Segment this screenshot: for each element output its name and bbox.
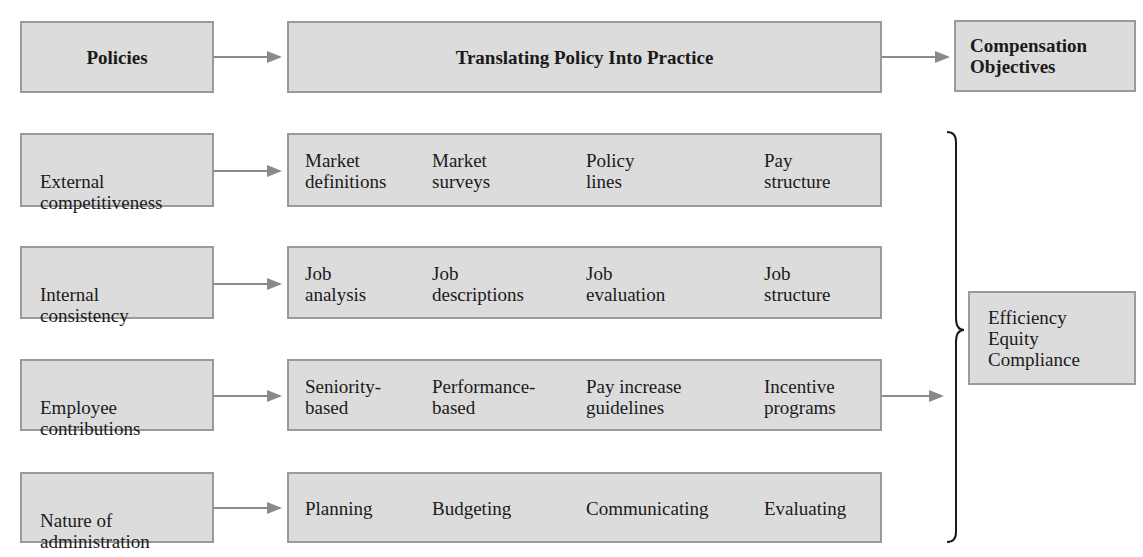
objectives-list: Efficiency Equity Compliance: [988, 307, 1080, 370]
practice-item: Budgeting: [432, 498, 511, 519]
arrow-row-2: [214, 283, 280, 285]
objectives-header: Compensation Objectives: [954, 20, 1136, 92]
practice-item: Job evaluation: [586, 263, 665, 305]
practice-box-administration: Planning Budgeting Communicating Evaluat…: [287, 472, 882, 543]
practice-item: Seniority- based: [305, 376, 381, 418]
practice-item: Evaluating: [764, 498, 846, 519]
policy-label: External competitiveness: [40, 171, 162, 213]
arrow-policies-to-practice: [214, 56, 280, 58]
practice-item: Pay structure: [764, 150, 830, 192]
policy-label: Employee contributions: [40, 397, 140, 439]
arrow-practice-to-objectives: [882, 56, 948, 58]
translating-header: Translating Policy Into Practice: [287, 21, 882, 93]
practice-item: Communicating: [586, 498, 708, 519]
policy-box-administration: Nature of administration: [20, 472, 214, 543]
practice-item: Job structure: [764, 263, 830, 305]
practice-item: Policy lines: [586, 150, 635, 192]
practice-item: Market surveys: [432, 150, 490, 192]
right-brace-icon: [940, 128, 970, 548]
practice-box-external: Market definitions Market surveys Policy…: [287, 133, 882, 207]
policy-box-external: External competitiveness: [20, 133, 214, 207]
practice-item: Market definitions: [305, 150, 386, 192]
practice-box-employee: Seniority- based Performance- based Pay …: [287, 359, 882, 431]
arrow-row-1: [214, 170, 280, 172]
objectives-header-label: Compensation Objectives: [970, 35, 1087, 77]
practice-item: Performance- based: [432, 376, 535, 418]
practice-item: Pay increase guidelines: [586, 376, 681, 418]
policy-box-internal: Internal consistency: [20, 246, 214, 319]
policies-header: Policies: [20, 21, 214, 93]
arrow-to-brace: [882, 395, 942, 397]
practice-box-internal: Job analysis Job descriptions Job evalua…: [287, 246, 882, 319]
policies-header-label: Policies: [86, 47, 147, 68]
policy-label: Nature of administration: [40, 510, 150, 552]
practice-item: Job descriptions: [432, 263, 524, 305]
objectives-box: Efficiency Equity Compliance: [968, 291, 1136, 385]
policy-box-employee: Employee contributions: [20, 359, 214, 431]
arrow-row-3: [214, 395, 280, 397]
arrow-row-4: [214, 507, 280, 509]
policy-label: Internal consistency: [40, 284, 129, 326]
practice-item: Job analysis: [305, 263, 366, 305]
translating-header-label: Translating Policy Into Practice: [456, 47, 714, 68]
practice-item: Planning: [305, 498, 373, 519]
practice-item: Incentive programs: [764, 376, 836, 418]
